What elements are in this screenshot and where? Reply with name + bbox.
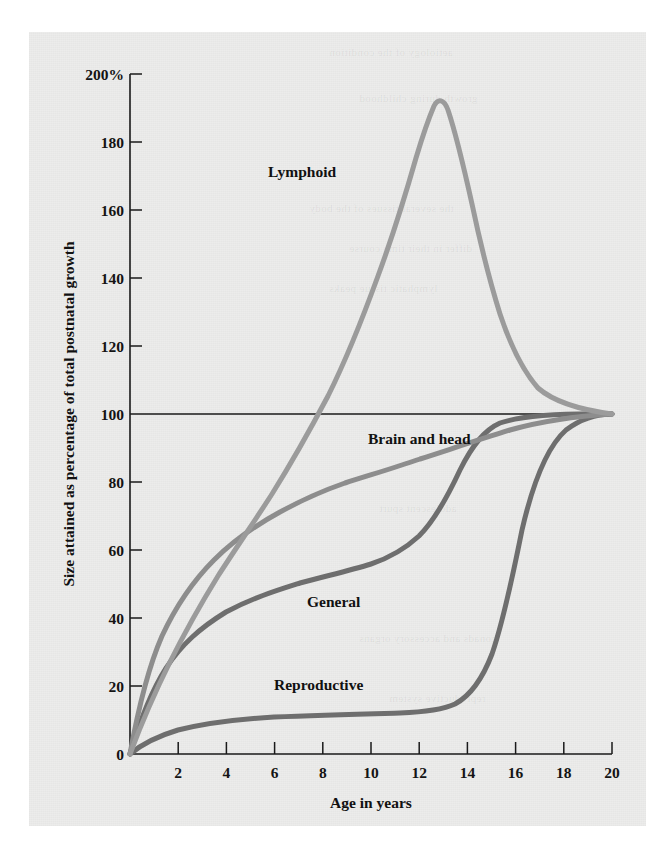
y-tick-marks <box>130 74 142 686</box>
y-tick-label: 100 <box>101 406 125 423</box>
x-tick-label: 12 <box>411 764 427 781</box>
x-tick-label: 4 <box>223 764 231 781</box>
curve-general <box>130 414 612 754</box>
curve-label-reproductive: Reproductive <box>274 676 363 693</box>
curve-brain-and-head <box>130 414 612 754</box>
curve-lymphoid <box>130 101 612 754</box>
y-tick-label: 40 <box>109 610 125 627</box>
x-axis-title: Age in years <box>330 794 412 811</box>
y-tick-labels: 200% 180 160 140 120 100 80 60 40 20 0 <box>85 66 124 763</box>
x-tick-label: 8 <box>319 764 327 781</box>
x-tick-label: 14 <box>460 764 476 781</box>
curve-label-brain-and-head: Brain and head <box>368 430 471 447</box>
y-tick-label: 0 <box>116 746 124 763</box>
curve-annotations: Lymphoid Brain and head General Reproduc… <box>268 163 471 693</box>
curves-group <box>130 101 612 754</box>
curve-reproductive <box>130 414 612 754</box>
y-tick-label: 160 <box>101 202 125 219</box>
x-tick-labels: 2 4 6 8 10 12 14 16 18 20 <box>174 764 620 781</box>
x-tick-label: 16 <box>508 764 524 781</box>
y-axis-title: Size attained as percentage of total pos… <box>60 241 77 587</box>
y-tick-label: 120 <box>101 338 125 355</box>
y-tick-label: 60 <box>109 542 125 559</box>
y-tick-label: 80 <box>109 474 125 491</box>
growth-curves-chart: 200% 180 160 140 120 100 80 60 40 20 0 2… <box>0 0 663 854</box>
x-tick-label: 20 <box>604 764 620 781</box>
x-tick-label: 6 <box>271 764 279 781</box>
x-tick-label: 10 <box>363 764 379 781</box>
x-tick-marks <box>178 742 612 754</box>
y-tick-label: 180 <box>101 134 125 151</box>
y-tick-label: 140 <box>101 270 125 287</box>
curve-label-general: General <box>307 593 361 610</box>
x-tick-label: 2 <box>174 764 182 781</box>
x-tick-label: 18 <box>556 764 572 781</box>
y-tick-label: 20 <box>109 678 125 695</box>
y-tick-label: 200% <box>85 66 124 83</box>
page-root: aetiology of the condition growth during… <box>0 0 663 854</box>
curve-label-lymphoid: Lymphoid <box>268 163 336 180</box>
